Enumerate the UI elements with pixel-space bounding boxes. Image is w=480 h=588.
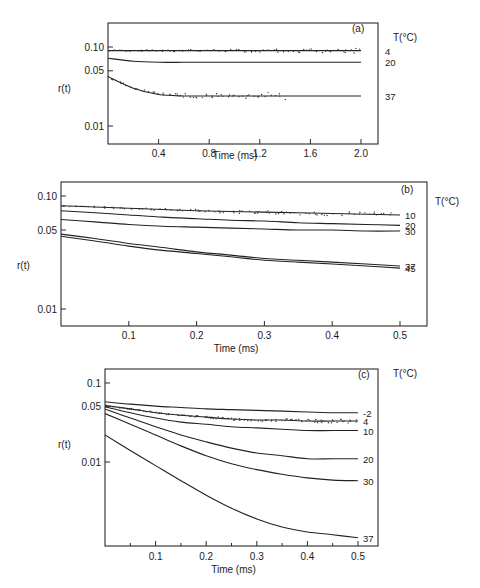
x-tick-label: 0.2 [190, 330, 204, 341]
data-point [195, 415, 196, 416]
data-point [232, 50, 233, 51]
series-curve-30 [105, 414, 358, 481]
x-tick-label: 2.0 [354, 148, 368, 159]
data-point [306, 49, 307, 50]
series-label: 30 [405, 226, 416, 237]
data-point [271, 95, 272, 96]
data-point [152, 49, 153, 50]
data-point [320, 420, 321, 421]
x-tick-label: 0.3 [257, 330, 271, 341]
data-point [258, 211, 259, 212]
data-point [355, 48, 356, 49]
data-point [153, 91, 154, 92]
data-point [94, 206, 95, 207]
data-point [190, 49, 191, 50]
data-point [230, 211, 231, 212]
series-label: 30 [363, 476, 374, 487]
data-point [254, 419, 255, 420]
y-tick-label: 0.01 [38, 304, 58, 315]
data-point [193, 97, 194, 98]
data-point [262, 421, 263, 422]
data-point [247, 95, 248, 96]
data-point [203, 50, 204, 51]
data-point [197, 50, 198, 51]
data-point [281, 420, 282, 421]
data-point [119, 50, 120, 51]
x-axis-label: Time (ms) [213, 150, 258, 161]
data-point [206, 50, 207, 51]
data-point [145, 208, 146, 209]
data-point [166, 414, 167, 415]
data-point [285, 99, 286, 100]
data-point [332, 420, 333, 421]
plot-frame [108, 23, 378, 144]
data-point [221, 418, 222, 419]
data-point [204, 211, 205, 212]
x-tick-label: 0.1 [122, 330, 136, 341]
data-point [310, 48, 311, 49]
series-label: 20 [385, 57, 396, 68]
data-point [199, 50, 200, 51]
data-point [185, 93, 186, 94]
data-point [373, 213, 374, 214]
data-point [109, 50, 110, 51]
data-point [364, 212, 365, 213]
data-point [331, 422, 332, 423]
data-point [239, 210, 240, 211]
panel-label: (a) [352, 23, 364, 34]
series-label: 37 [363, 533, 374, 544]
data-point [356, 419, 357, 420]
data-point [309, 213, 310, 214]
data-point [242, 95, 243, 96]
data-point [197, 415, 198, 416]
data-point [328, 50, 329, 51]
data-point [122, 207, 123, 208]
data-point [121, 407, 122, 408]
data-point [175, 93, 176, 94]
data-point [170, 209, 171, 210]
data-point [383, 213, 384, 214]
data-point [244, 51, 245, 52]
data-point [281, 211, 282, 212]
data-point [225, 51, 226, 52]
data-point [208, 210, 209, 211]
data-point [114, 50, 115, 51]
data-point [250, 420, 251, 421]
data-point [127, 408, 128, 409]
data-point [179, 209, 180, 210]
data-point [156, 50, 157, 51]
series-curve-20 [105, 409, 358, 459]
data-point [307, 419, 308, 420]
series-curve-37 [61, 234, 400, 266]
data-point [314, 422, 315, 423]
data-point [124, 208, 125, 209]
y-tick-label: 0.01 [82, 457, 102, 468]
data-point [267, 92, 268, 93]
data-point [218, 416, 219, 417]
data-point [193, 50, 194, 51]
series-label: 45 [405, 263, 416, 274]
data-point [288, 51, 289, 52]
data-point [177, 210, 178, 211]
data-point [285, 418, 286, 419]
data-point [187, 415, 188, 416]
data-point [165, 208, 166, 209]
data-point [234, 94, 235, 95]
data-point [345, 49, 346, 50]
data-point [286, 211, 287, 212]
series-curve-30 [61, 219, 400, 231]
data-point [110, 406, 111, 407]
data-point [293, 212, 294, 213]
series-label: 10 [405, 210, 416, 221]
data-point [354, 213, 355, 214]
series-label: 4 [385, 46, 390, 57]
data-point [211, 416, 212, 417]
data-point [114, 406, 115, 407]
data-point [159, 208, 160, 209]
data-point [108, 76, 109, 77]
data-point [153, 209, 154, 210]
x-tick-label: 0.4 [152, 148, 166, 159]
data-point [189, 416, 190, 417]
data-point [239, 213, 240, 214]
data-point [120, 207, 121, 208]
